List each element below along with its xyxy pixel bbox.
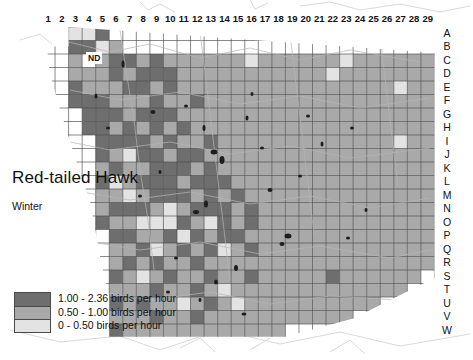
- grid-cell-E17: [258, 81, 272, 95]
- grid-cell-C24: [353, 54, 367, 68]
- grid-cell-T20: [299, 284, 313, 298]
- grid-cell-S23: [340, 270, 354, 284]
- grid-cell-G9: [150, 108, 164, 122]
- grid-cell-S11: [177, 270, 191, 284]
- grid-cell-L20: [299, 176, 313, 190]
- grid-cell-I16: [245, 135, 259, 149]
- grid-cell-N18: [272, 203, 286, 217]
- grid-cell-N15: [231, 203, 245, 217]
- grid-cell-M27: [394, 189, 408, 203]
- grid-cell-G3: [69, 108, 83, 122]
- legend-label-low: 0 - 0.50 birds per hour: [58, 319, 161, 333]
- grid-cell-P3: [69, 230, 83, 244]
- grid-cell-L21: [313, 176, 327, 190]
- grid-cell-C3: [69, 54, 83, 68]
- grid-cell-S29: [421, 270, 435, 284]
- grid-cell-L11: [177, 176, 191, 190]
- grid-cell-I6: [109, 135, 123, 149]
- grid-cell-J24: [353, 149, 367, 163]
- grid-cell-S6: [109, 270, 123, 284]
- grid-cell-C9: [150, 54, 164, 68]
- grid-cell-W25: [367, 324, 381, 338]
- grid-cell-G15: [231, 108, 245, 122]
- grid-cell-N12: [191, 203, 205, 217]
- grid-cell-G22: [326, 108, 340, 122]
- grid-cell-G6: [109, 108, 123, 122]
- grid-cell-J11: [177, 149, 191, 163]
- grid-cell-E14: [218, 81, 232, 95]
- map-title: Red-tailed Hawk: [12, 168, 142, 187]
- grid-cell-M29: [421, 189, 435, 203]
- grid-cell-B25: [367, 41, 381, 55]
- grid-cell-A28: [407, 27, 421, 41]
- grid-cell-D6: [109, 68, 123, 82]
- grid-cell-K28: [407, 162, 421, 176]
- column-label-23: 23: [339, 12, 353, 25]
- grid-cell-D26: [380, 68, 394, 82]
- grid-cell-H15: [231, 122, 245, 136]
- grid-cell-D11: [177, 68, 191, 82]
- grid-cell-E3: [69, 81, 83, 95]
- grid-cell-A16: [245, 27, 259, 41]
- grid-cell-A4: [82, 27, 96, 41]
- grid-cell-D4: [82, 68, 96, 82]
- grid-cell-S8: [136, 270, 150, 284]
- grid-cell-K18: [272, 162, 286, 176]
- grid-cell-G4: [82, 108, 96, 122]
- grid-cell-D9: [150, 68, 164, 82]
- grid-cell-M16: [245, 189, 259, 203]
- grid-cell-S24: [353, 270, 367, 284]
- grid-cell-F7: [123, 95, 137, 109]
- grid-cell-P10: [163, 230, 177, 244]
- row-label-M: M: [440, 189, 454, 202]
- row-label-W: W: [440, 324, 454, 337]
- grid-cell-C17: [258, 54, 272, 68]
- grid-cell-B27: [394, 41, 408, 55]
- grid-cell-F6: [109, 95, 123, 109]
- row-label-O: O: [440, 216, 454, 229]
- grid-cell-V19: [285, 311, 299, 325]
- grid-cell-F13: [204, 95, 218, 109]
- grid-cell-V18: [272, 311, 286, 325]
- grid-cell-Q24: [353, 243, 367, 257]
- grid-cell-H2: [55, 122, 69, 136]
- grid-cell-Q4: [82, 243, 96, 257]
- grid-cell-R9: [150, 257, 164, 271]
- grid-cell-H21: [313, 122, 327, 136]
- column-label-18: 18: [272, 12, 286, 25]
- grid-cell-T22: [326, 284, 340, 298]
- grid-cell-J5: [96, 149, 110, 163]
- grid-cell-L14: [218, 176, 232, 190]
- grid-cell-M21: [313, 189, 327, 203]
- row-label-F: F: [440, 94, 454, 107]
- grid-cell-Q1: [42, 243, 56, 257]
- grid-cell-C2: [55, 54, 69, 68]
- grid-cell-L25: [367, 176, 381, 190]
- column-label-4: 4: [82, 12, 96, 25]
- grid-cell-L17: [258, 176, 272, 190]
- row-label-V: V: [440, 310, 454, 323]
- grid-cell-S1: [42, 270, 56, 284]
- grid-cell-N29: [421, 203, 435, 217]
- grid-cell-A3: [69, 27, 83, 41]
- grid-cell-K23: [340, 162, 354, 176]
- grid-cell-P17: [258, 230, 272, 244]
- grid-cell-H11: [177, 122, 191, 136]
- grid-cell-J29: [421, 149, 435, 163]
- grid-cell-W29: [421, 324, 435, 338]
- grid-cell-A27: [394, 27, 408, 41]
- grid-cell-E6: [109, 81, 123, 95]
- grid-cell-H29: [421, 122, 435, 136]
- grid-cell-W21: [313, 324, 327, 338]
- column-label-9: 9: [150, 12, 164, 25]
- grid-cell-I26: [380, 135, 394, 149]
- grid-cell-A11: [177, 27, 191, 41]
- grid-cell-R16: [245, 257, 259, 271]
- grid-cell-E2: [55, 81, 69, 95]
- grid-cell-O26: [380, 216, 394, 230]
- grid-cell-E4: [82, 81, 96, 95]
- grid-cell-K11: [177, 162, 191, 176]
- column-label-28: 28: [407, 12, 421, 25]
- grid-cell-S25: [367, 270, 381, 284]
- grid-cell-K21: [313, 162, 327, 176]
